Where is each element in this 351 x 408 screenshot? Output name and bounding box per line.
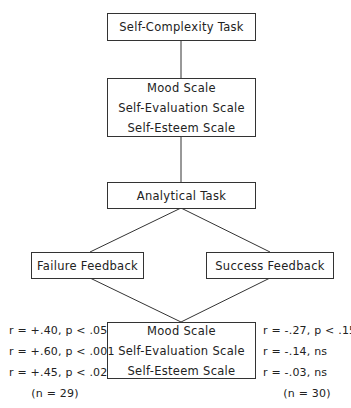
sample-size: (n = 29) (9, 383, 101, 404)
pre-measures-box: Mood Scale Self-Evaluation Scale Self-Es… (107, 78, 256, 137)
failure-correlations: r = +.40, p < .05 r = +.60, p < .001 r =… (9, 320, 101, 404)
box-label: Analytical Task (137, 186, 226, 206)
success-correlations: r = -.27, p < .15 r = -.14, ns r = -.03,… (263, 320, 351, 404)
mood-scale-label: Mood Scale (147, 321, 216, 341)
analytical-task-box: Analytical Task (107, 182, 256, 209)
self-complexity-task-box: Self-Complexity Task (107, 13, 256, 41)
self-esteem-scale-label: Self-Esteem Scale (128, 361, 236, 381)
correlation-mood: r = -.27, p < .15 (263, 320, 351, 341)
correlation-self-esteem: r = -.03, ns (263, 362, 351, 383)
failure-feedback-box: Failure Feedback (31, 252, 144, 279)
correlation-self-evaluation: r = -.14, ns (263, 341, 351, 362)
sample-size: (n = 30) (263, 383, 351, 404)
self-esteem-scale-label: Self-Esteem Scale (128, 118, 236, 138)
correlation-mood: r = +.40, p < .05 (9, 320, 101, 341)
post-measures-box: Mood Scale Self-Evaluation Scale Self-Es… (107, 322, 256, 379)
correlation-self-evaluation: r = +.60, p < .001 (9, 341, 101, 362)
mood-scale-label: Mood Scale (147, 78, 216, 98)
box-label: Self-Complexity Task (119, 17, 244, 37)
box-label: Failure Feedback (37, 256, 138, 276)
self-evaluation-scale-label: Self-Evaluation Scale (118, 98, 245, 118)
correlation-self-esteem: r = +.45, p < .02 (9, 362, 101, 383)
success-feedback-box: Success Feedback (206, 252, 334, 279)
self-evaluation-scale-label: Self-Evaluation Scale (118, 341, 245, 361)
box-label: Success Feedback (215, 256, 325, 276)
